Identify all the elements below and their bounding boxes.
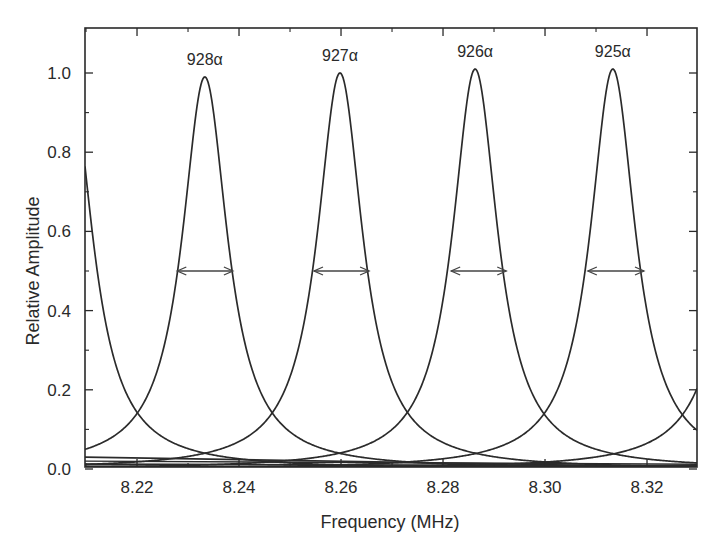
y-tick-label: 1.0 — [47, 64, 71, 83]
peak-label: 925α — [595, 43, 631, 60]
peak-curves — [85, 69, 697, 468]
x-tick-label: 8.32 — [630, 478, 663, 497]
fwhm-double-arrow — [451, 267, 506, 275]
x-axis-title: Frequency (MHz) — [320, 512, 459, 532]
x-tick-label: 8.28 — [426, 478, 459, 497]
peak-curve-925alpha — [85, 69, 697, 468]
y-tick-label: 0.2 — [47, 381, 71, 400]
y-axis-title: Relative Amplitude — [23, 196, 43, 345]
fwhm-arrows — [177, 267, 644, 275]
y-tick-label: 0.0 — [47, 460, 71, 479]
x-tick-label: 8.22 — [120, 478, 153, 497]
x-tick-label: 8.24 — [222, 478, 255, 497]
fwhm-double-arrow — [588, 267, 644, 275]
y-tick-label: 0.8 — [47, 143, 71, 162]
peak-label: 928α — [187, 51, 223, 68]
peak-curve-926alpha — [85, 69, 697, 467]
peak-curve-929alpha — [85, 166, 697, 468]
resonance-chart: 928α927α926α925α 8.228.248.268.288.308.3… — [0, 0, 716, 549]
peak-label: 927α — [322, 47, 358, 64]
y-tick-label: 0.4 — [47, 302, 71, 321]
peak-curve-924alpha — [85, 389, 697, 469]
x-tick-label: 8.26 — [324, 478, 357, 497]
peak-labels: 928α927α926α925α — [187, 43, 631, 68]
peak-curve-928alpha — [85, 77, 697, 468]
x-tick-label: 8.30 — [528, 478, 561, 497]
x-axis-ticks: 8.228.248.268.288.308.32 — [86, 28, 664, 497]
fwhm-double-arrow — [314, 267, 369, 275]
y-tick-label: 0.6 — [47, 222, 71, 241]
peak-label: 926α — [457, 43, 493, 60]
peak-curve-927alpha — [85, 73, 697, 467]
fwhm-double-arrow — [177, 267, 233, 275]
